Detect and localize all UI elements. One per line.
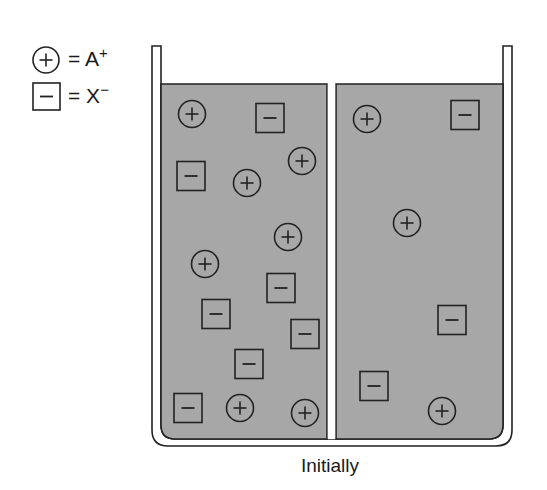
- legend-cation-charge: +: [99, 44, 108, 61]
- legend-anion-icon: [33, 83, 60, 110]
- legend-anion-charge: −: [100, 81, 109, 98]
- legend-cation-label: = A+: [68, 47, 108, 71]
- legend-equals: =: [68, 84, 80, 107]
- legend-anion-label: = X−: [68, 84, 109, 108]
- legend-anion-name: X: [86, 84, 100, 107]
- membrane-partition: [328, 84, 335, 439]
- legend-equals: =: [68, 47, 80, 70]
- legend-cation-name: A: [85, 47, 99, 70]
- ion-distribution-diagram: [0, 0, 547, 490]
- right-compartment-liquid: [336, 84, 503, 439]
- diagram-caption: Initially: [270, 455, 390, 477]
- legend-cation-icon: [33, 47, 59, 73]
- left-compartment-liquid: [161, 84, 327, 439]
